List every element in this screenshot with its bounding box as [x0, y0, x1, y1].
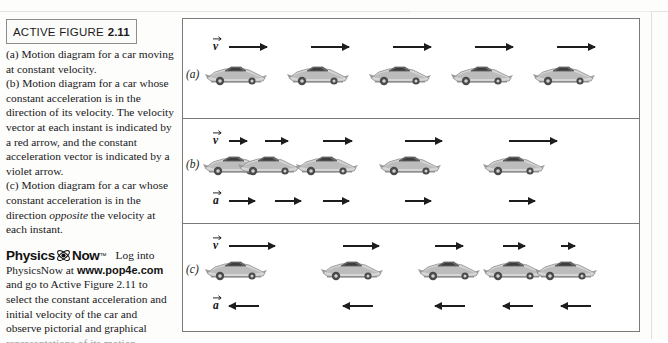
velocity-arrow	[393, 46, 431, 48]
car-image	[321, 258, 383, 282]
caption-paragraph-a: (a) Motion diagram for a car moving at c…	[6, 47, 174, 76]
car-image	[418, 258, 480, 282]
atom-icon	[56, 248, 71, 263]
physicsnow-tail-text: Log into	[116, 249, 155, 261]
velocity-vector-symbol: v	[213, 239, 218, 251]
velocity-arrow	[229, 46, 267, 48]
panel-label-a: (a)	[186, 68, 199, 80]
caption-column: ACTIVE FIGURE 2.11 (a) Motion diagram fo…	[6, 19, 174, 339]
caption-paragraph-c: (c) Motion diagram for a car whose const…	[6, 178, 174, 236]
motion-panel-a: (a)v	[183, 19, 639, 119]
figure-title-text: ACTIVE FIGURE	[13, 26, 104, 38]
car-image	[287, 63, 349, 87]
caption-c-emphasis: opposite	[49, 209, 88, 221]
velocity-arrow	[343, 245, 379, 247]
velocity-arrow	[265, 140, 288, 142]
physicsnow-word-now: Now	[72, 248, 100, 263]
acceleration-arrow	[503, 305, 533, 307]
velocity-arrow	[323, 140, 352, 142]
active-figure-title-box: ACTIVE FIGURE 2.11	[6, 19, 137, 44]
instructions-before-url: PhysicsNow at	[6, 264, 77, 276]
velocity-vector-symbol: v	[213, 40, 218, 52]
physicsnow-logo: Physics Now ™	[6, 248, 107, 263]
acceleration-arrow	[509, 200, 535, 202]
acceleration-vector-symbol: a	[213, 299, 219, 311]
velocity-vector-symbol: v	[213, 134, 218, 146]
physicsnow-url[interactable]: www.pop4e.com	[77, 264, 163, 276]
velocity-arrow	[229, 140, 247, 142]
motion-panel-c: (c)va	[183, 224, 639, 331]
car-image	[483, 153, 545, 177]
velocity-arrow	[475, 46, 513, 48]
panel-label-c: (c)	[186, 263, 199, 275]
velocity-arrow	[435, 245, 463, 247]
car-image	[379, 153, 441, 177]
car-image	[205, 63, 267, 87]
acceleration-arrow	[275, 200, 301, 202]
caption-paragraph-b: (b) Motion diagram for a car whose const…	[6, 76, 174, 178]
acceleration-arrow	[435, 305, 465, 307]
physicsnow-block: Physics Now ™ Log into PhysicsNow at www…	[6, 245, 174, 343]
velocity-arrow	[229, 245, 275, 247]
car-image	[238, 153, 300, 177]
car-image	[296, 153, 358, 177]
acceleration-arrow	[561, 305, 591, 307]
physicsnow-instructions: PhysicsNow at www.pop4e.com and go to Ac…	[6, 263, 174, 336]
instructions-after-url: and go to Active Figure 2.11 to select t…	[6, 278, 167, 334]
figure-number: 2.11	[108, 26, 130, 38]
car-image	[533, 63, 595, 87]
acceleration-arrow	[343, 305, 373, 307]
acceleration-arrow	[229, 305, 259, 307]
velocity-arrow	[311, 46, 349, 48]
page-frame-top	[410, 11, 651, 12]
velocity-arrow	[503, 245, 525, 247]
motion-panel-b: (b)va	[183, 119, 639, 224]
acceleration-arrow	[323, 200, 349, 202]
page-frame-right	[651, 11, 652, 339]
clipped-caption-line: representations of its motion.	[6, 336, 174, 343]
car-image	[369, 63, 431, 87]
velocity-arrow	[557, 46, 595, 48]
acceleration-arrow	[229, 200, 255, 202]
car-image	[451, 63, 513, 87]
acceleration-arrow	[405, 200, 431, 202]
trademark-symbol: ™	[100, 252, 107, 259]
velocity-arrow	[509, 140, 557, 142]
velocity-arrow	[405, 140, 442, 142]
motion-diagram-figure: (a)v (b)va (c)va	[182, 18, 640, 332]
velocity-arrow	[561, 245, 575, 247]
panel-label-b: (b)	[186, 158, 199, 170]
car-image	[205, 258, 267, 282]
acceleration-vector-symbol: a	[213, 194, 219, 206]
physicsnow-word-physics: Physics	[6, 248, 55, 263]
car-image	[535, 258, 597, 282]
